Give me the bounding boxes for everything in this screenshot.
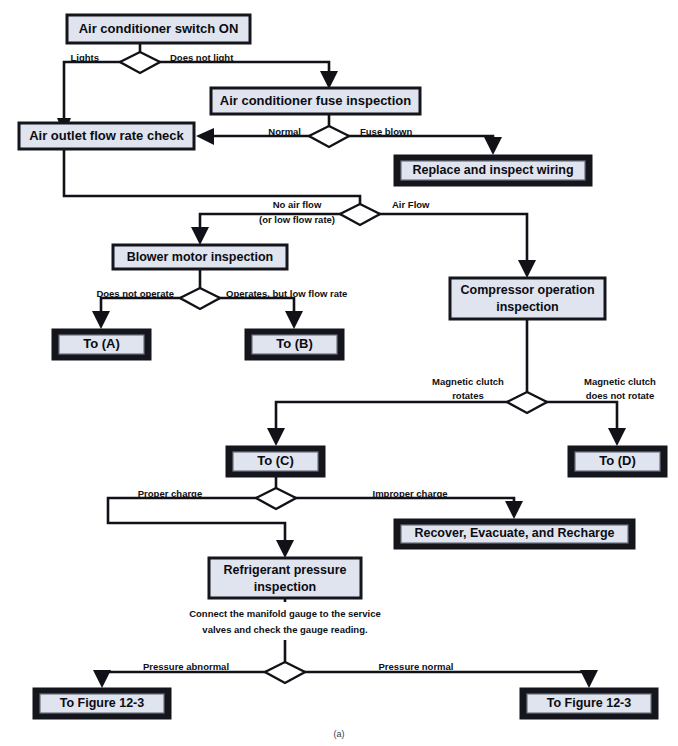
edge-label-no-air-flow: No air flow — [273, 199, 322, 210]
node-label-refrigerant-line1: Refrigerant pressure — [224, 563, 347, 577]
edge-label-air-flow: Air Flow — [392, 199, 430, 210]
note-manifold-gauge-line2: valves and check the gauge reading. — [202, 624, 367, 635]
edge-label-proper-charge: Proper charge — [138, 488, 202, 499]
edge-label-lights: Lights — [71, 52, 100, 63]
node-air-conditioner-switch-on[interactable]: Air conditioner switch ON — [67, 15, 250, 43]
node-to-d[interactable]: To (D) — [568, 446, 667, 477]
flowchart-diagram: Air conditioner switch ON Lights Does no… — [0, 0, 678, 746]
node-air-conditioner-fuse-inspection[interactable]: Air conditioner fuse inspection — [211, 88, 420, 114]
node-recover-evacuate-recharge[interactable]: Recover, Evacuate, and Recharge — [394, 519, 635, 549]
node-label-to-a: To (A) — [83, 336, 120, 351]
node-label-refrigerant-line2: inspection — [254, 580, 317, 594]
node-label-compressor-line2: inspection — [496, 300, 559, 314]
edge-label-does-not-light: Does not light — [170, 52, 234, 63]
node-label-to-d: To (D) — [599, 453, 636, 468]
edge-label-pressure-normal: Pressure normal — [379, 661, 454, 672]
edge-label-does-not-operate: Does not operate — [96, 288, 174, 299]
node-label-to-figure-left: To Figure 12-3 — [60, 696, 145, 710]
edge-label-no-air-flow-sub: (or low flow rate) — [259, 214, 335, 225]
note-manifold-gauge-line1: Connect the manifold gauge to the servic… — [189, 608, 381, 619]
node-to-a[interactable]: To (A) — [52, 329, 151, 360]
edge-label-improper-charge: Improper charge — [373, 488, 448, 499]
node-label-blower-motor: Blower motor inspection — [127, 250, 274, 264]
node-label-start: Air conditioner switch ON — [79, 21, 239, 36]
node-to-figure-12-3-left[interactable]: To Figure 12-3 — [33, 688, 171, 719]
edge-label-clutch-not-rotate-line1: Magnetic clutch — [584, 376, 656, 387]
node-label-replace-wiring: Replace and inspect wiring — [412, 163, 573, 177]
node-label-to-b: To (B) — [276, 336, 313, 351]
node-label-recover: Recover, Evacuate, and Recharge — [414, 526, 614, 540]
node-to-b[interactable]: To (B) — [245, 329, 344, 360]
node-compressor-operation-inspection[interactable]: Compressor operation inspection — [450, 278, 605, 319]
figure-caption: (a) — [334, 729, 345, 739]
node-refrigerant-pressure-inspection[interactable]: Refrigerant pressure inspection — [209, 558, 361, 598]
node-to-figure-12-3-right[interactable]: To Figure 12-3 — [520, 688, 658, 719]
node-replace-and-inspect-wiring[interactable]: Replace and inspect wiring — [394, 155, 592, 186]
node-label-to-figure-right: To Figure 12-3 — [547, 696, 632, 710]
flowchart-canvas: Air conditioner switch ON Lights Does no… — [0, 0, 678, 746]
node-label-compressor-line1: Compressor operation — [460, 283, 594, 297]
node-to-c[interactable]: To (C) — [226, 446, 325, 477]
edge-label-normal: Normal — [268, 126, 301, 137]
node-label-air-outlet-check: Air outlet flow rate check — [29, 128, 184, 143]
edge-label-operates-low-flow: Operates, but low flow rate — [226, 288, 347, 299]
edge-label-clutch-rotates-line2: rotates — [452, 390, 484, 401]
edge-label-clutch-rotates-line1: Magnetic clutch — [432, 376, 504, 387]
edge-label-pressure-abnormal: Pressure abnormal — [143, 661, 229, 672]
node-label-fuse-inspection: Air conditioner fuse inspection — [220, 93, 411, 108]
edge-label-clutch-not-rotate-line2: does not rotate — [586, 390, 655, 401]
edge-label-fuse-blown: Fuse blown — [360, 126, 412, 137]
node-blower-motor-inspection[interactable]: Blower motor inspection — [113, 245, 287, 269]
node-label-to-c: To (C) — [257, 453, 294, 468]
node-air-outlet-flow-rate-check[interactable]: Air outlet flow rate check — [19, 123, 194, 149]
